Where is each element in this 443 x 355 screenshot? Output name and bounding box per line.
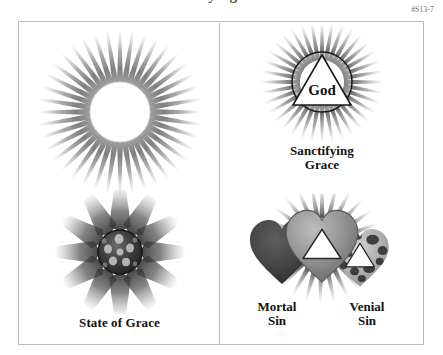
panel-left: State of Grace: [20, 22, 219, 346]
three-hearts-sin: [232, 194, 412, 308]
plate-id-label: #S13-7: [411, 5, 434, 14]
caption-mortal-sin: Mortal Sin: [241, 300, 313, 328]
figure-cell-three-hearts: Mortal Sin Venial Sin: [220, 194, 424, 346]
caption-state-of-grace: State of Grace: [20, 316, 219, 330]
god-label: God: [308, 82, 336, 98]
caption-sanctifying-grace: Sanctifying Grace: [220, 144, 424, 172]
illustration-frame: State of Grace: [18, 21, 424, 345]
illustration-page: Sanctifying Grace #S13-7: [0, 0, 443, 355]
sun-dark-disc: [32, 190, 208, 314]
figure-cell-sun-bright: [20, 26, 219, 196]
figure-cell-god-triangle: God Sanctifying Grace: [220, 26, 424, 190]
hearts-captions: Mortal Sin Venial Sin: [220, 300, 424, 328]
figure-cell-sun-dark: State of Grace: [20, 190, 219, 346]
panel-right: God Sanctifying Grace: [220, 22, 424, 346]
sun-bright-disc: [27, 28, 213, 196]
page-title-strip: Sanctifying Grace: [0, 0, 443, 9]
god-triangle-in-circle: God: [238, 26, 406, 152]
page-title: Sanctifying Grace: [0, 0, 443, 4]
caption-venial-sin: Venial Sin: [331, 300, 403, 328]
